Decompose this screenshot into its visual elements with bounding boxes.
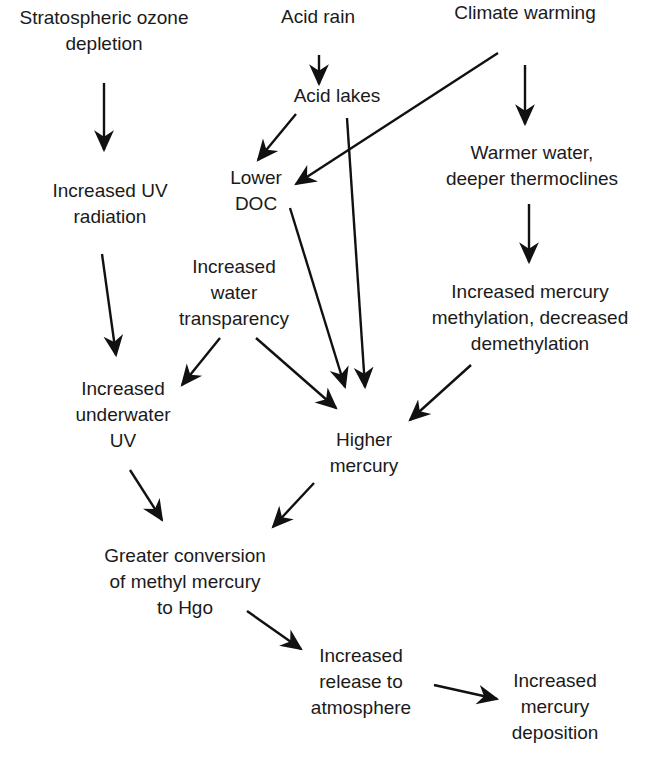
node-increased-water-transparency: Increased water transparency [179,254,289,332]
node-line: deposition [512,720,599,746]
node-line: Increased [75,376,170,402]
arrow-higher-mercury-to-conversion [273,483,314,527]
node-line: of methyl mercury [104,569,266,595]
arrow-methylation-to-higher-mercury [410,365,471,420]
node-stratospheric-ozone-depletion: Stratospheric ozone depletion [20,5,189,57]
arrow-transparency-to-underwater-uv [182,338,220,385]
node-line: Lower [230,165,282,191]
node-line: DOC [230,191,282,217]
arrow-release-to-deposition [434,685,497,699]
node-line: UV [75,428,170,454]
arrow-underwater-uv-to-conversion [130,470,162,520]
node-line: demethylation [432,331,628,357]
node-line: Warmer water, [446,140,618,166]
node-line: to Hgo [104,595,266,621]
node-increased-mercury-methylation: Increased mercury methylation, decreased… [432,279,628,357]
node-lower-doc: Lower DOC [230,165,282,217]
node-increased-uv-radiation: Increased UV radiation [52,178,167,230]
arrow-lower-doc-to-higher-mercury [290,208,345,387]
node-warmer-water: Warmer water, deeper thermoclines [446,140,618,192]
node-greater-conversion: Greater conversion of methyl mercury to … [104,543,266,621]
node-line: Increased mercury [432,279,628,305]
node-line: Increased UV [52,178,167,204]
node-line: Increased [179,254,289,280]
node-line: transparency [179,306,289,332]
node-acid-rain: Acid rain [281,4,355,30]
node-line: Stratospheric ozone [20,5,189,31]
diagram-canvas: Stratospheric ozone depletion Acid rain … [0,0,651,769]
node-line: release to [311,669,411,695]
node-line: atmosphere [311,695,411,721]
node-line: Higher [330,427,399,453]
node-line: methylation, decreased [432,305,628,331]
node-increased-mercury-deposition: Increased mercury deposition [512,668,599,746]
node-line: mercury [330,453,399,479]
arrow-uv-radiation-to-underwater-uv [102,254,116,355]
arrow-acid-lakes-to-lower-doc [258,114,296,160]
node-line: Increased [512,668,599,694]
node-line: Acid rain [281,4,355,30]
node-acid-lakes: Acid lakes [294,83,381,109]
node-increased-release: Increased release to atmosphere [311,643,411,721]
node-higher-mercury: Higher mercury [330,427,399,479]
node-line: underwater [75,402,170,428]
node-line: Acid lakes [294,83,381,109]
node-line: radiation [52,204,167,230]
node-line: deeper thermoclines [446,166,618,192]
node-climate-warming: Climate warming [454,0,595,26]
node-line: depletion [20,31,189,57]
arrow-transparency-to-higher-mercury [256,338,336,408]
node-line: Greater conversion [104,543,266,569]
node-line: Increased [311,643,411,669]
node-line: water [179,280,289,306]
node-line: Climate warming [454,0,595,26]
node-line: mercury [512,694,599,720]
arrow-acid-lakes-to-higher-mercury [347,118,365,387]
node-increased-underwater-uv: Increased underwater UV [75,376,170,454]
